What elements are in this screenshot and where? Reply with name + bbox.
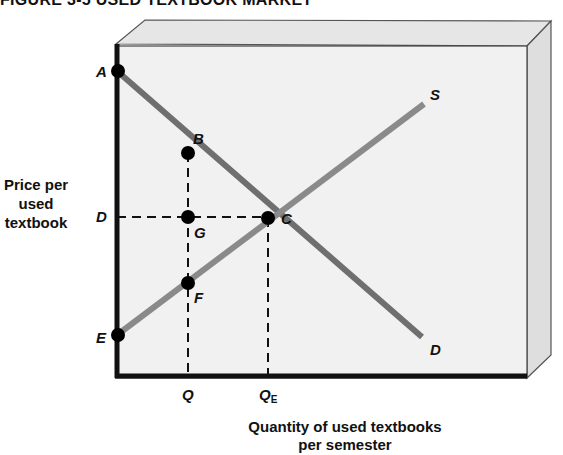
y-label-line-2: used <box>0 194 72 213</box>
x-tick-q: Q <box>182 386 194 403</box>
point-f-dot <box>181 276 195 290</box>
y-label-line-1: Price per <box>0 175 72 194</box>
point-a-label: A <box>95 63 107 80</box>
y-label-line-3: textbook <box>0 213 72 232</box>
panel-top-face <box>116 20 551 46</box>
supply-label: S <box>430 86 440 103</box>
x-tick-qe: QE <box>259 386 278 405</box>
panel-side-face <box>527 21 551 378</box>
point-g-dot <box>181 210 195 224</box>
x-label-line-1: Quantity of used textbooks <box>230 418 460 436</box>
chart-canvas: A B G C F E D S D Q QE <box>0 0 563 455</box>
point-g-label: G <box>194 224 206 241</box>
point-c-label: C <box>281 210 293 227</box>
demand-label: D <box>430 341 441 358</box>
x-axis-label: Quantity of used textbooks per semester <box>230 418 460 454</box>
point-b-label: B <box>193 130 204 147</box>
plot-area <box>116 46 527 378</box>
x-label-line-2: per semester <box>230 436 460 454</box>
price-d-label: D <box>96 208 107 225</box>
point-e-dot <box>111 328 125 342</box>
point-f-label: F <box>194 289 204 306</box>
point-a-dot <box>111 64 125 78</box>
point-e-label: E <box>96 329 107 346</box>
point-b-dot <box>181 146 195 160</box>
point-c-dot <box>261 211 275 225</box>
y-axis-label: Price per used textbook <box>0 175 72 232</box>
